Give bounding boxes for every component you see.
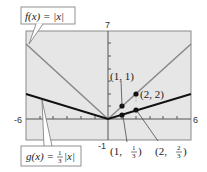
y-max-label: 7 bbox=[105, 20, 110, 30]
point-label-1-1: (1, 1) bbox=[110, 70, 134, 83]
x-max-label: 6 bbox=[193, 115, 198, 125]
point-2-2 bbox=[133, 91, 138, 96]
point-1-third bbox=[119, 112, 124, 117]
svg-text:g(x) =: g(x) = bbox=[26, 150, 54, 163]
function-graph: -6 6 7 -1 (1, 1) (2, 2) (1, 1 3 ) (2, 2 … bbox=[0, 0, 207, 172]
x-min-label: -6 bbox=[14, 115, 22, 125]
svg-text:1: 1 bbox=[132, 144, 136, 152]
svg-text:|x|: |x| bbox=[64, 150, 75, 162]
point-label-2-two-thirds: (2, 2 3 ) bbox=[155, 144, 187, 160]
svg-text:1: 1 bbox=[58, 149, 62, 157]
point-label-2-2: (2, 2) bbox=[140, 88, 164, 101]
svg-text:3: 3 bbox=[132, 152, 136, 160]
svg-text:): ) bbox=[183, 145, 187, 158]
svg-text:f(x) = |x|: f(x) = |x| bbox=[25, 10, 64, 23]
svg-text:3: 3 bbox=[58, 157, 62, 165]
point-label-1-third: (1, 1 3 ) bbox=[110, 144, 142, 160]
svg-text:(2,: (2, bbox=[155, 145, 167, 158]
svg-text:2: 2 bbox=[177, 144, 181, 152]
y-min-label: -1 bbox=[98, 141, 106, 151]
svg-text:3: 3 bbox=[177, 152, 181, 160]
svg-text:): ) bbox=[138, 145, 142, 158]
svg-text:(1,: (1, bbox=[110, 145, 122, 158]
